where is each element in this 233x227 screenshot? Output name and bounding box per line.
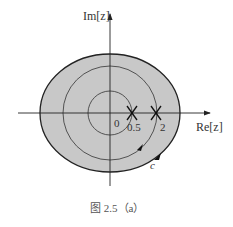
figure-caption: 图 2.5（a）: [90, 202, 144, 214]
contour-label: c: [150, 159, 155, 171]
real-axis-label: Re[z]: [196, 120, 223, 134]
imaginary-axis-label: Im[z]: [83, 9, 110, 23]
z-plane-diagram: Im[z] Re[z] 0 0.5 2 c 图 2.5（a）: [0, 0, 233, 227]
origin-label: 0: [114, 117, 120, 129]
point-label-2: 2: [160, 121, 166, 133]
point-label-0-5: 0.5: [127, 121, 141, 133]
